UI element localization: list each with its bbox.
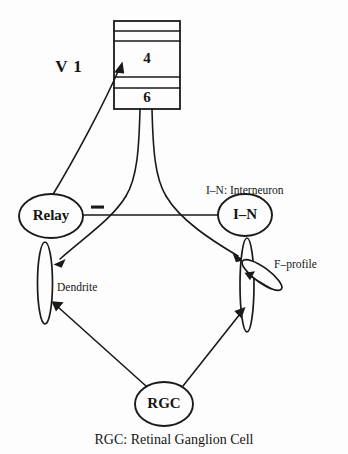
layer6-left-trunk [126, 109, 140, 196]
relay-label: Relay [33, 207, 70, 223]
v1-label: V 1 [55, 57, 83, 76]
rgc-to-interneuron-dendrite-line [183, 314, 240, 386]
connection-interneuron-to-relay [62, 206, 245, 220]
connection-rgc-to-relay-dendrite [52, 301, 147, 386]
cortex-layer-4-label: 4 [143, 50, 151, 66]
connection-relay-to-layer4 [52, 62, 124, 197]
v1-cortex-box: 4 6 [114, 21, 180, 109]
connection-rgc-to-interneuron-dendrite [183, 307, 246, 386]
node-rgc: RGC [135, 382, 193, 426]
rgc-label: RGC [147, 395, 180, 411]
figure-caption: RGC: Retinal Ganglion Cell [94, 432, 253, 447]
node-interneuron: I–N [218, 194, 272, 236]
interneuron-dendrite-ellipse [240, 238, 254, 332]
node-relay: Relay [19, 194, 83, 238]
dendrite-label: Dendrite [57, 281, 97, 293]
interneuron-label: I–N [233, 206, 257, 222]
relay-to-layer4-line [52, 67, 120, 196]
cortex-layer-6-label: 6 [143, 89, 151, 105]
layer6-right-trunk [152, 109, 166, 196]
f-profile-label: F–profile [274, 258, 317, 271]
diagram-canvas: 4 6 V 1 Relay [0, 0, 348, 454]
interneuron-legend-label: I–N: Interneuron [206, 184, 284, 196]
interneuron-dendrite [240, 238, 254, 332]
layer6-left-arrowhead [54, 259, 66, 268]
relay-dendrite [38, 242, 53, 324]
rgc-to-relay-dendrite-line [58, 307, 146, 386]
relay-dendrite-ellipse [38, 242, 53, 324]
inhibitory-minus-sign [91, 206, 104, 209]
circuit-diagram: 4 6 V 1 Relay [0, 0, 348, 454]
